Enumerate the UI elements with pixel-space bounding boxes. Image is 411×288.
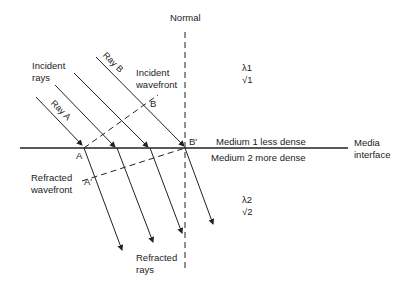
refracted-ray-b — [185, 148, 213, 224]
point-a-prime-label: A' — [84, 176, 92, 187]
point-a-label: A — [76, 150, 82, 161]
incident-wavefront-label-1: Incident — [136, 67, 169, 78]
medium-2-label: Medium 2 more dense — [211, 152, 306, 163]
refracted-rays-label-2: rays — [136, 264, 154, 275]
lambda1-label: λ1 — [242, 62, 252, 73]
incident-rays-label-1: Incident — [32, 60, 65, 71]
medium-1-label: Medium 1 less dense — [216, 136, 306, 147]
diagram-lines — [0, 0, 411, 288]
lambda2-label: λ2 — [242, 194, 252, 205]
incident-wavefront-line — [84, 95, 158, 148]
refracted-rays-label-1: Refracted — [136, 252, 177, 263]
refracted-wavefront-label-2: wavefront — [31, 184, 72, 195]
incident-rays-label-2: rays — [32, 72, 50, 83]
v2-label: √2 — [242, 206, 253, 217]
point-b-label: B — [150, 98, 156, 109]
media-interface-label-1: Media — [354, 137, 380, 148]
refracted-wavefront-line — [82, 148, 185, 181]
refraction-diagram: Normal Incident rays Incident wavefront … — [0, 0, 411, 288]
normal-label: Normal — [170, 12, 201, 23]
refracted-ray-2 — [117, 148, 153, 242]
refracted-wavefront-label-1: Refracted — [31, 172, 72, 183]
media-interface-label-2: interface — [354, 149, 390, 160]
incident-wavefront-label-2: wavefront — [136, 79, 177, 90]
v1-label: √1 — [242, 74, 253, 85]
point-b-prime-label: B' — [189, 136, 197, 147]
refracted-ray-3 — [150, 148, 182, 233]
refracted-ray-a — [84, 148, 122, 250]
